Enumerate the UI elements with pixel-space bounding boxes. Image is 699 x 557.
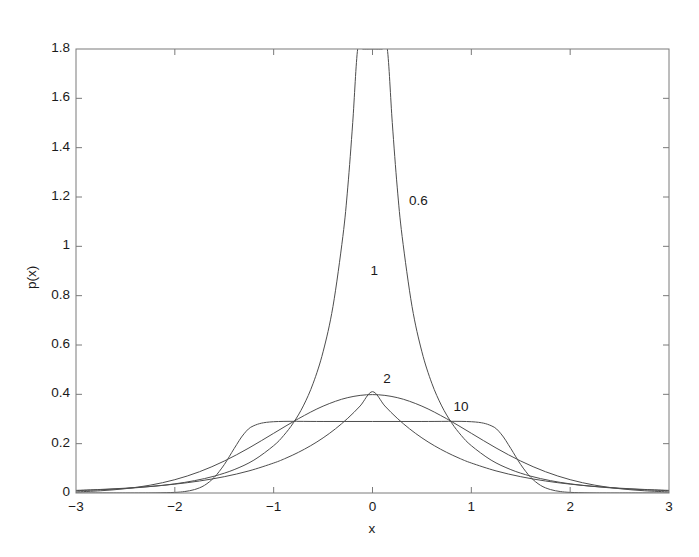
y-tick-label: 1.4	[18, 139, 70, 154]
curve-p-1	[76, 392, 669, 491]
y-tick-label: 0.4	[18, 385, 70, 400]
figure-canvas: −3−2−10123 00.20.40.60.811.21.41.61.8 0.…	[0, 0, 699, 557]
curve-label-1: 1	[371, 263, 379, 278]
chart-plot-area	[0, 0, 699, 557]
y-tick-label: 0.6	[18, 336, 70, 351]
x-tick-label: −1	[260, 499, 288, 514]
x-tick-label: −2	[161, 499, 189, 514]
curve-label-0.6: 0.6	[409, 193, 428, 208]
curve-label-2: 2	[383, 371, 391, 386]
x-tick-label: 2	[556, 499, 584, 514]
y-tick-label: 0	[18, 484, 70, 499]
y-tick-label: 1.2	[18, 188, 70, 203]
y-tick-label: 1.8	[18, 40, 70, 55]
x-tick-label: 3	[655, 499, 683, 514]
y-tick-label: 0.2	[18, 435, 70, 450]
y-tick-label: 1.6	[18, 89, 70, 104]
y-axis-title: p(x)	[24, 266, 39, 289]
curve-label-10: 10	[454, 399, 469, 414]
x-tick-label: −3	[62, 499, 90, 514]
y-tick-label: 1	[18, 237, 70, 252]
x-tick-label: 1	[457, 499, 485, 514]
x-axis-title: x	[369, 521, 376, 536]
x-tick-label: 0	[359, 499, 387, 514]
curve-p-2	[76, 395, 669, 492]
